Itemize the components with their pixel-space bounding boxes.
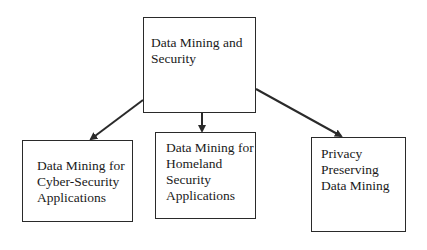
label-line: Applications <box>166 188 254 204</box>
node-cyber-security-applications: Data Mining for Cyber-Security Applicati… <box>22 140 133 222</box>
node-label: Data Mining for Cyber-Security Applicati… <box>37 158 125 206</box>
label-line: Data Mining for <box>166 140 254 156</box>
label-line: Privacy <box>321 146 390 162</box>
label-line: Data Mining <box>321 178 390 194</box>
label-line: Data Mining for <box>37 158 125 174</box>
edge-root-to-privacy <box>256 89 341 136</box>
label-line: Data Mining and <box>151 35 242 51</box>
node-privacy-preserving-data-mining: Privacy Preserving Data Mining <box>311 137 406 232</box>
label-line: Security <box>166 172 254 188</box>
label-line: Applications <box>37 190 125 206</box>
node-data-mining-and-security: Data Mining and Security <box>143 17 256 113</box>
label-line: Security <box>151 51 242 67</box>
label-line: Preserving <box>321 162 390 178</box>
edge-root-to-cyber <box>91 100 143 139</box>
label-line: Cyber-Security <box>37 174 125 190</box>
node-label: Data Mining for Homeland Security Applic… <box>166 140 254 204</box>
label-line: Homeland <box>166 156 254 172</box>
node-label: Privacy Preserving Data Mining <box>321 146 390 194</box>
node-homeland-security-applications: Data Mining for Homeland Security Applic… <box>155 132 256 219</box>
node-label: Data Mining and Security <box>151 35 242 67</box>
